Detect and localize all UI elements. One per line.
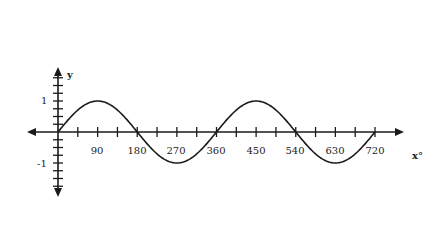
x-tick-label-540: 540 (285, 145, 304, 156)
x-tick-label-90: 90 (91, 145, 104, 156)
x-axis-label: x° (412, 150, 423, 161)
sine-chart: y x° 1 -1 90 180 270 360 450 540 630 720 (0, 0, 442, 227)
y-axis-down-arrow-icon (54, 188, 62, 197)
y-tick-label-neg1: -1 (37, 158, 47, 169)
x-axis-right-arrow-icon (395, 128, 404, 136)
y-axis-up-arrow-icon (54, 67, 62, 76)
x-tick-label-720: 720 (365, 145, 384, 156)
x-tick-label-450: 450 (246, 145, 265, 156)
x-axis-left-arrow-icon (27, 128, 36, 136)
x-tick-label-180: 180 (127, 145, 146, 156)
y-tick-label-1: 1 (41, 95, 47, 106)
y-axis-label: y (66, 69, 74, 80)
x-tick-label-270: 270 (166, 145, 185, 156)
x-tick-label-630: 630 (325, 145, 344, 156)
x-tick-label-360: 360 (206, 145, 225, 156)
